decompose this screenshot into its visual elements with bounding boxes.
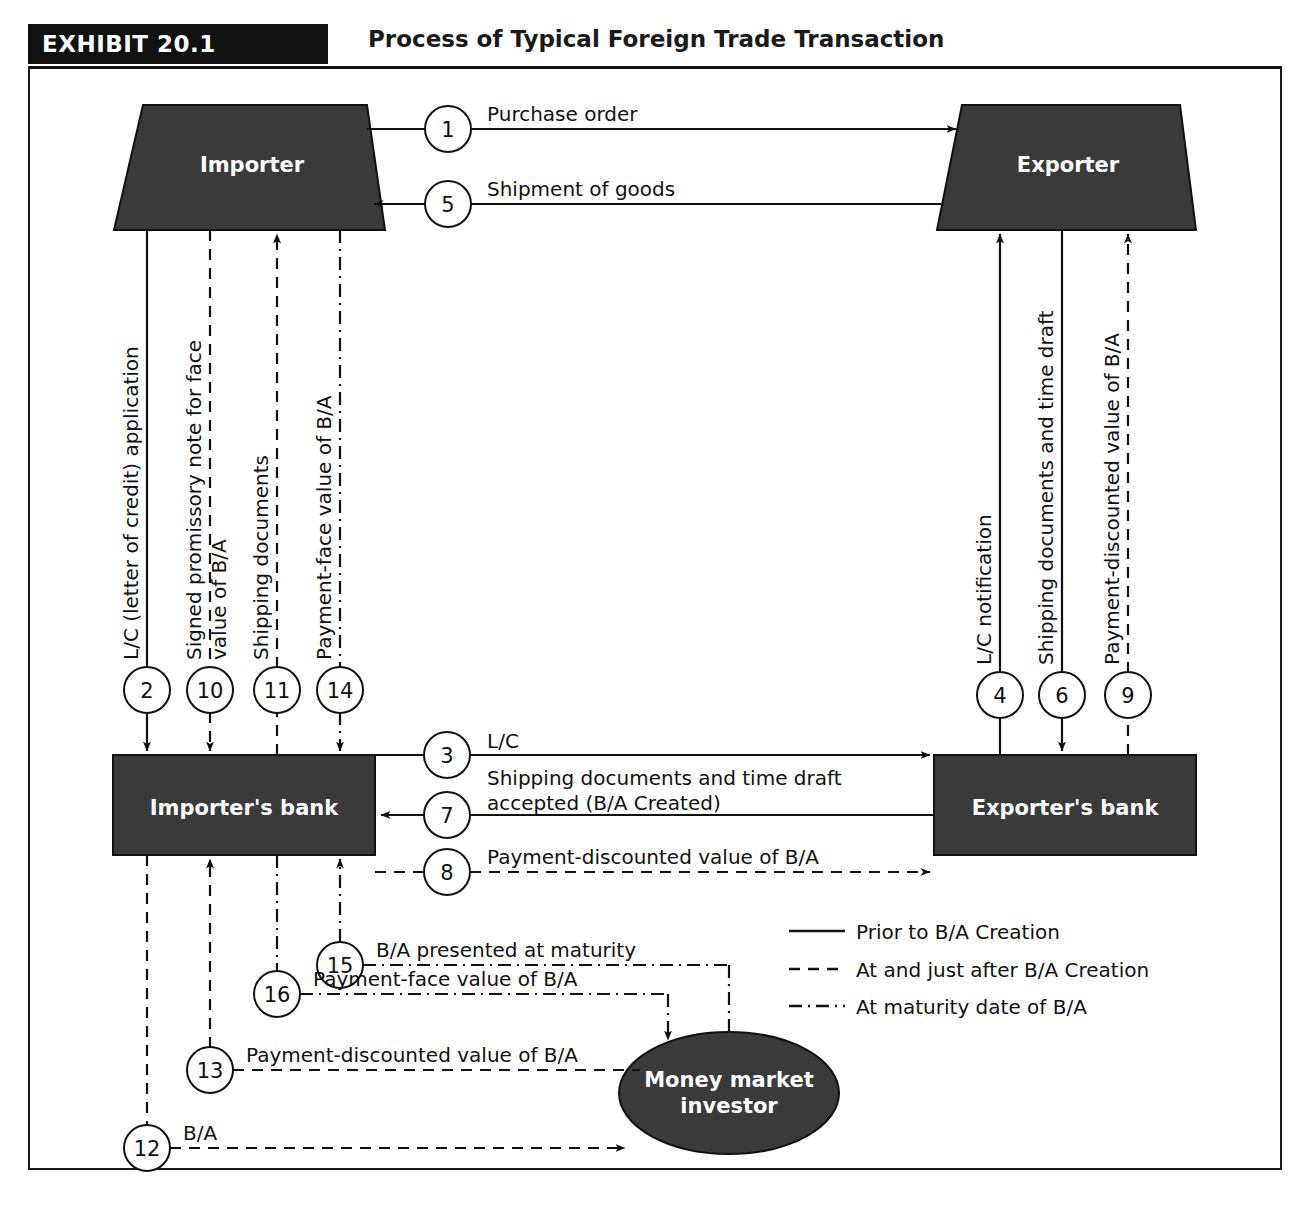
flow-label-5: Shipment of goods [487, 177, 675, 201]
flow-label-7-line2: accepted (B/A Created) [487, 791, 721, 815]
step-number-6: 6 [1055, 684, 1068, 708]
flow-label-11: Shipping documents [249, 455, 273, 660]
step-number-13: 13 [197, 1059, 224, 1083]
flow-label-12: B/A [183, 1121, 217, 1145]
flow-label-3: L/C [487, 729, 519, 753]
step-number-9: 9 [1121, 684, 1134, 708]
flow-label-4: L/C notification [972, 514, 996, 665]
step-number-1: 1 [441, 118, 454, 142]
flow-label-16: Payment-face value of B/A [313, 967, 578, 991]
step-number-5: 5 [441, 193, 454, 217]
flow-label-13: Payment-discounted value of B/A [246, 1043, 578, 1067]
diagram-canvas: Importer Exporter Importer's bank Export… [0, 0, 1308, 1214]
legend-label-dashdot: At maturity date of B/A [856, 995, 1087, 1019]
money-market-investor-label-1: Money market [644, 1068, 814, 1092]
money-market-investor-shape [619, 1032, 839, 1154]
flow-label-14: Payment-face value of B/A [312, 395, 336, 660]
flow-label-2: L/C (letter of credit) application [119, 346, 143, 660]
step-number-2: 2 [140, 679, 153, 703]
legend-label-solid: Prior to B/A Creation [856, 920, 1060, 944]
step-number-3: 3 [440, 744, 453, 768]
flow-label-15: B/A presented at maturity [376, 938, 636, 962]
step-number-8: 8 [440, 861, 453, 885]
exporter-bank-label: Exporter's bank [972, 796, 1160, 820]
step-number-7: 7 [440, 804, 453, 828]
exhibit-page: EXHIBIT 20.1 Process of Typical Foreign … [0, 0, 1308, 1214]
step-number-16: 16 [264, 983, 291, 1007]
money-market-investor-label-2: investor [680, 1094, 778, 1118]
importer-bank-label: Importer's bank [150, 796, 340, 820]
importer-label: Importer [200, 153, 305, 177]
flow-label-9: Payment-discounted value of B/A [1100, 333, 1124, 665]
flow-label-10-line2: value of B/A [207, 539, 231, 660]
step-number-4: 4 [993, 684, 1006, 708]
flow-label-8: Payment-discounted value of B/A [487, 845, 819, 869]
exporter-label: Exporter [1017, 153, 1120, 177]
legend-label-dashed: At and just after B/A Creation [856, 958, 1149, 982]
flow-label-10-line1: Signed promissory note for face [182, 340, 206, 660]
step-number-11: 11 [264, 679, 291, 703]
step-number-14: 14 [327, 679, 354, 703]
flow-label-1: Purchase order [487, 102, 638, 126]
flow-label-6: Shipping documents and time draft [1034, 310, 1058, 665]
step-number-10: 10 [197, 679, 224, 703]
step-number-12: 12 [134, 1137, 161, 1161]
flow-label-7-line1: Shipping documents and time draft [487, 766, 842, 790]
